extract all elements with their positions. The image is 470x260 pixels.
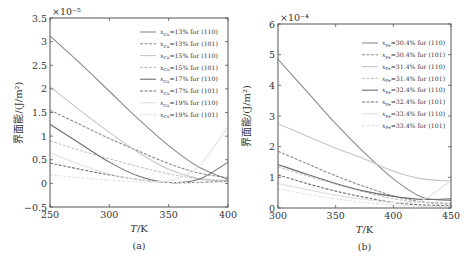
chart-panel-a: 250300350400−0.500.511.522.533.5×10⁻⁵界面能…	[12, 6, 237, 251]
legend-label: xFe=32.4% for (110)	[382, 86, 445, 95]
y-multiplier: ×10⁻⁵	[52, 6, 81, 17]
figure: 250300350400−0.500.511.522.533.5×10⁻⁵界面能…	[0, 0, 470, 260]
legend-label: xCu=13% for (110)	[160, 28, 218, 37]
legend: xCu=13% for (110)xCu=13% for (101)xCu=15…	[140, 28, 218, 119]
y-tick-label: 2	[41, 83, 47, 94]
x-tick-label: 400	[384, 210, 402, 221]
legend-label: xCu=13% for (101)	[160, 40, 218, 49]
x-tick-label: 300	[100, 209, 118, 220]
y-tick-label: 5	[269, 49, 275, 60]
legend-label: xFe=33.4% for (110)	[382, 110, 445, 119]
legend-label: xCu=19% for (101)	[160, 111, 218, 120]
y-tick-label: 0.5	[32, 154, 47, 165]
y-tick-label: 1	[269, 172, 275, 183]
series-line	[50, 141, 228, 181]
legend-label: xCu=19% for (110)	[160, 99, 218, 108]
y-axis-label: 界面能/(J/m²)	[12, 81, 24, 143]
legend-label: xFe=31.4% for (110)	[382, 63, 445, 72]
y-tick-label: 3.5	[32, 13, 47, 24]
legend-label: xFe=33.4% for (101)	[382, 122, 445, 131]
legend-label: xCu=15% for (110)	[160, 52, 218, 61]
x-tick-label: 400	[219, 209, 237, 220]
panel-caption: (a)	[132, 240, 145, 251]
x-tick-label: 350	[327, 210, 345, 221]
legend-label: xFe=31.4% for (101)	[382, 75, 445, 84]
legend-label: xCu=17% for (110)	[160, 75, 218, 84]
y-tick-label: 2.5	[32, 60, 47, 71]
y-tick-label: 1	[41, 131, 47, 142]
x-axis-label: T/K	[130, 223, 148, 234]
y-multiplier: ×10⁻⁴	[280, 12, 309, 23]
x-axis-label: T/K	[356, 224, 374, 235]
y-axis-label: 界面能/(J/m²)	[240, 85, 252, 147]
chart-panel-b: 3003504004500123456×10⁻⁴界面能/(J/m²)T/K(b)…	[240, 12, 460, 252]
legend-label: xFe=30.4% for (110)	[382, 39, 445, 48]
legend-label: xCu=17% for (101)	[160, 87, 218, 96]
y-tick-label: 6	[269, 19, 275, 30]
legend-label: xCu=15% for (101)	[160, 64, 218, 73]
x-tick-label: 450	[442, 210, 460, 221]
y-tick-label: 0	[269, 203, 275, 214]
legend: xFe=30.4% for (110)xFe=30.4% for (101)xF…	[362, 39, 445, 130]
y-tick-label: −0.5	[24, 202, 47, 213]
y-tick-label: 4	[269, 80, 275, 91]
series-line	[278, 164, 451, 199]
y-tick-label: 0	[41, 178, 47, 189]
panel-caption: (b)	[358, 241, 372, 252]
y-tick-label: 2	[269, 141, 275, 152]
legend-label: xFe=32.4% for (101)	[382, 98, 445, 107]
y-tick-label: 1.5	[32, 107, 47, 118]
y-tick-label: 3	[41, 36, 47, 47]
x-tick-label: 350	[160, 209, 178, 220]
y-tick-label: 3	[269, 111, 275, 122]
legend-label: xFe=30.4% for (101)	[382, 51, 445, 60]
